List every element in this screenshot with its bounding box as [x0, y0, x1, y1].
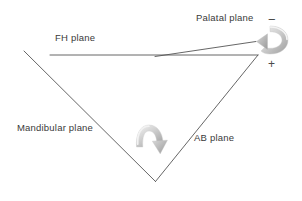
clockwise-rotation-arrow: [136, 125, 167, 154]
rotation-arrow-head: [257, 34, 268, 50]
counterclockwise-rotation-arrow: [257, 26, 289, 54]
palatal-plane-line: [155, 42, 256, 57]
plus-sign-label: +: [268, 58, 275, 70]
diagram-canvas: [0, 0, 302, 201]
palatal-plane-label: Palatal plane: [196, 12, 254, 23]
fh-plane-label: FH plane: [55, 32, 95, 43]
mandibular-plane-label: Mandibular plane: [17, 122, 93, 133]
plane-lines-group: [24, 42, 258, 182]
mandibular-plane-line: [24, 51, 156, 182]
ab-plane-line: [156, 55, 259, 182]
rotation-arrow-head: [152, 140, 167, 154]
ab-plane-label: AB plane: [194, 132, 234, 143]
minus-sign-label: −: [268, 13, 276, 26]
cephalometric-planes-diagram: FH plane Palatal plane Mandibular plane …: [0, 0, 302, 201]
